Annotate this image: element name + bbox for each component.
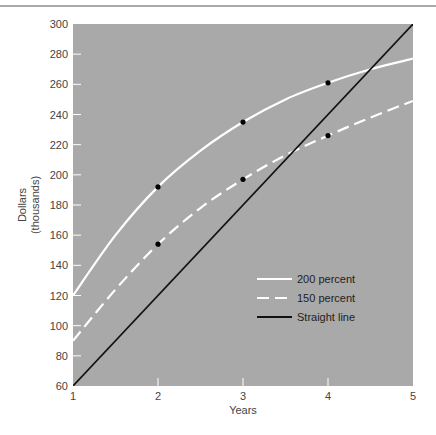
data-point-marker <box>240 177 245 182</box>
y-tick-label: 100 <box>50 320 68 332</box>
x-tick-label: 3 <box>240 390 246 402</box>
y-axis-title-line2: (thousands) <box>29 176 41 234</box>
y-tick-label: 80 <box>56 350 68 362</box>
x-tick-label: 4 <box>325 390 331 402</box>
y-tick-label: 160 <box>50 229 68 241</box>
x-tick-label: 2 <box>155 390 161 402</box>
y-tick-label: 60 <box>56 380 68 392</box>
legend-label-150-percent: 150 percent <box>297 292 355 304</box>
y-axis-title: Dollars (thousands) <box>16 176 41 234</box>
x-tick-label: 1 <box>70 390 76 402</box>
legend-label-200-percent: 200 percent <box>297 273 355 285</box>
legend-label-straight-line: Straight line <box>297 311 355 323</box>
data-point-marker <box>155 242 160 247</box>
y-tick-label: 280 <box>50 48 68 60</box>
depreciation-chart: 6080100120140160180200220240260280300 12… <box>0 0 436 435</box>
y-tick-label: 240 <box>50 109 68 121</box>
data-point-marker <box>240 119 245 124</box>
y-tick-label: 180 <box>50 199 68 211</box>
x-axis-title: Years <box>229 404 257 416</box>
data-point-marker <box>325 80 330 85</box>
y-tick-label: 220 <box>50 139 68 151</box>
y-tick-label: 140 <box>50 259 68 271</box>
x-tick-label: 5 <box>410 390 416 402</box>
data-point-marker <box>155 184 160 189</box>
y-tick-label: 260 <box>50 78 68 90</box>
data-point-marker <box>325 133 330 138</box>
y-tick-label: 300 <box>50 18 68 30</box>
y-tick-label: 120 <box>50 290 68 302</box>
y-tick-label: 200 <box>50 169 68 181</box>
y-axis-title-line1: Dollars <box>16 187 28 222</box>
